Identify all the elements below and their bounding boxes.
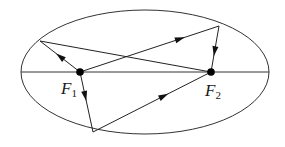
arrowhead-icon <box>174 37 184 43</box>
ray-2 <box>80 26 219 72</box>
focus-f1-letter: F <box>61 79 71 98</box>
arrowhead-icon <box>81 90 87 100</box>
ellipse-focus-diagram <box>0 0 285 147</box>
focus-f2-dot <box>207 68 215 76</box>
focus-f2-subscript: 2 <box>215 89 221 101</box>
arrowhead-icon <box>56 53 66 61</box>
focus-f2-letter: F <box>205 81 215 100</box>
focus-f1-dot <box>76 68 84 76</box>
focus-f1-label: F1 <box>61 80 77 99</box>
arrowhead-icon <box>213 46 219 56</box>
arrowhead-icon <box>158 94 168 101</box>
ray-5 <box>93 72 211 132</box>
focus-f2-label: F2 <box>205 82 221 101</box>
ray-4 <box>80 72 93 132</box>
focus-f1-subscript: 1 <box>71 87 77 99</box>
